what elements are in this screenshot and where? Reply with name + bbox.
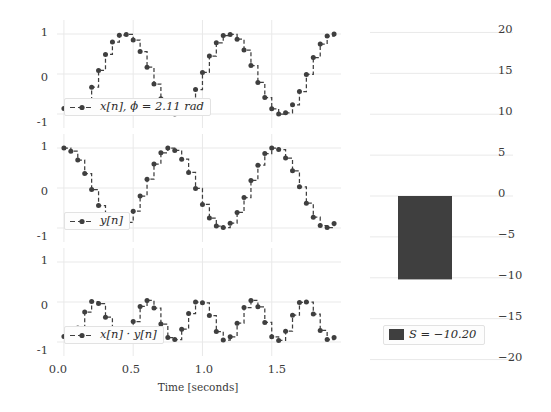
xtick-2: 1.0 [184,364,224,376]
rytick-10: 10 [498,106,536,118]
sum-bar [398,196,452,279]
rytick-15: 15 [498,65,536,77]
rytick-neg15: −15 [498,311,536,323]
dashed-marker-icon [69,216,95,225]
ytick-s3-neg1: -1 [22,345,48,357]
ytick-s1-neg1: -1 [22,117,48,129]
bar-axes [370,32,513,359]
xtick-3: 1.5 [257,364,297,376]
rytick-neg10: −10 [498,270,536,282]
ytick-s1-1: 1 [22,27,48,39]
left-signal-panel [0,0,380,412]
ytick-s1-0: 0 [22,72,48,84]
legend-product-signal[interactable]: x[n] · y[n] [64,326,164,344]
dashed-marker-icon [69,102,95,111]
legend-y-signal[interactable]: y[n] [64,212,130,230]
dashed-marker-icon [69,330,95,339]
ytick-s3-1: 1 [22,255,48,267]
rytick-neg5: −5 [498,229,536,241]
legend-y-label: y[n] [100,215,123,227]
xtick-1: 0.5 [111,364,151,376]
rytick-5: 5 [498,147,536,159]
ytick-s2-0: 0 [22,186,48,198]
rytick-20: 20 [498,24,536,36]
xtick-0: 0.0 [38,364,78,376]
legend-sum[interactable]: S = −10.20 [383,325,485,345]
left-axes-graphics [0,0,380,412]
right-sum-panel [380,0,551,412]
x-axis-title: Time [seconds] [138,381,258,393]
legend-x-signal[interactable]: x[n], ϕ = 2.11 rad [64,98,211,116]
rytick-neg20: −20 [498,352,536,364]
ytick-s2-neg1: -1 [22,231,48,243]
legend-sum-label: S = −10.20 [409,329,476,341]
ytick-s2-1: 1 [22,141,48,153]
legend-x-label: x[n], ϕ = 2.11 rad [100,101,204,113]
right-axes-graphics [380,0,551,412]
figure-canvas: 1 0 -1 1 0 -1 1 0 -1 0.0 0.5 1.0 1.5 Tim… [0,0,551,412]
rytick-0: 0 [498,188,536,200]
ytick-s3-0: 0 [22,300,48,312]
bar-swatch-icon [389,329,404,340]
legend-product-label: x[n] · y[n] [100,329,157,341]
